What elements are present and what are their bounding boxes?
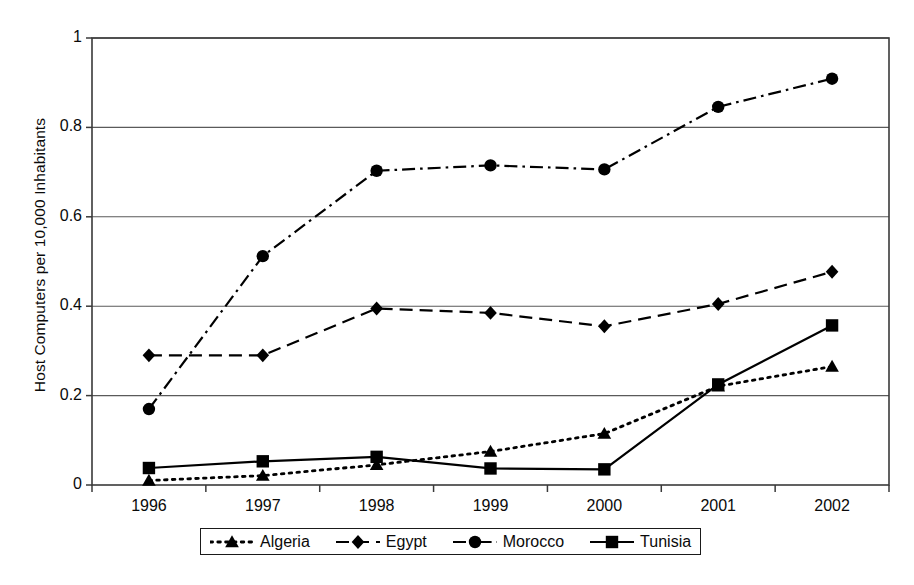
- data-point-marker-diamond: [351, 535, 364, 549]
- data-point-marker-square: [826, 319, 838, 331]
- data-point-marker-circle: [712, 101, 724, 113]
- x-axis-tick-label: 1996: [94, 497, 204, 515]
- legend-entry-egypt: Egypt: [336, 533, 427, 551]
- legend-swatch-egypt: [336, 534, 380, 550]
- series-egypt: [143, 265, 839, 362]
- data-point-marker-triangle: [142, 474, 156, 486]
- data-point-marker-square: [484, 462, 496, 474]
- x-axis-tick-label: 2000: [549, 497, 659, 515]
- data-point-marker-circle: [826, 72, 838, 84]
- data-point-marker-square: [370, 451, 382, 463]
- data-point-marker-circle: [484, 159, 496, 171]
- data-point-marker-diamond: [826, 265, 839, 279]
- data-point-marker-square: [606, 535, 618, 547]
- legend-swatch-algeria: [210, 534, 254, 550]
- legend-label-algeria: Algeria: [260, 533, 310, 551]
- chart-legend: AlgeriaEgyptMoroccoTunisia: [200, 528, 701, 555]
- legend-label-egypt: Egypt: [386, 533, 427, 551]
- data-point-marker-diamond: [712, 297, 725, 311]
- legend-swatch-tunisia: [590, 534, 634, 550]
- y-axis-tick-label: 0.8: [36, 117, 82, 135]
- x-axis-tick-label: 2002: [777, 497, 887, 515]
- data-point-marker-square: [257, 455, 269, 467]
- legend-swatch-morocco: [453, 534, 497, 550]
- x-axis-tick-label: 2001: [663, 497, 773, 515]
- data-point-marker-circle: [370, 165, 382, 177]
- y-axis-tick-label: 0.4: [36, 296, 82, 314]
- y-axis-tick-label: 0: [36, 475, 82, 493]
- data-point-marker-diamond: [256, 348, 269, 362]
- data-point-marker-diamond: [143, 348, 156, 362]
- legend-entry-morocco: Morocco: [453, 533, 564, 551]
- series-line-morocco: [149, 79, 832, 409]
- x-axis-tick-label: 1999: [436, 497, 546, 515]
- data-point-marker-circle: [143, 403, 155, 415]
- data-point-marker-circle: [257, 250, 269, 262]
- data-point-marker-diamond: [484, 306, 497, 320]
- data-point-marker-circle: [469, 535, 481, 547]
- legend-label-morocco: Morocco: [503, 533, 564, 551]
- chart-container: Host Computers per 10,000 Inhabitants 00…: [0, 0, 914, 585]
- y-axis-tick-label: 0.2: [36, 386, 82, 404]
- data-point-marker-square: [712, 378, 724, 390]
- plot-frame: [92, 38, 889, 485]
- x-axis-tick-label: 1997: [208, 497, 318, 515]
- series-morocco: [143, 72, 839, 415]
- legend-entry-algeria: Algeria: [210, 533, 310, 551]
- data-point-marker-triangle: [825, 360, 839, 372]
- data-point-marker-diamond: [598, 319, 611, 333]
- data-point-marker-square: [143, 462, 155, 474]
- y-axis-tick-label: 0.6: [36, 207, 82, 225]
- data-point-marker-square: [598, 463, 610, 475]
- legend-entry-tunisia: Tunisia: [590, 533, 691, 551]
- data-point-marker-diamond: [370, 301, 383, 315]
- data-point-marker-circle: [598, 163, 610, 175]
- legend-label-tunisia: Tunisia: [640, 533, 691, 551]
- y-axis-tick-label: 1: [36, 28, 82, 46]
- x-axis-tick-label: 1998: [322, 497, 432, 515]
